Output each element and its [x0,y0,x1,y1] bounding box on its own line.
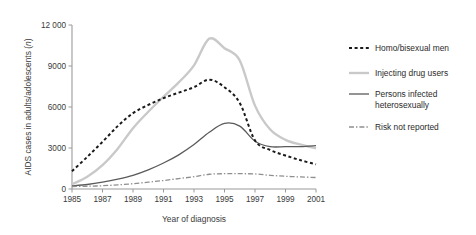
x-tick-label: 1993 [185,195,204,204]
legend-label-0: Homo/bisexual men [375,43,449,53]
legend-label-2-line2: heterosexually [375,100,430,110]
y-tick-label: 12 000 [41,21,66,30]
series-layer [72,38,316,186]
chart-figure: 030006000900012 000198519871989199119931… [0,0,476,235]
legend-label-2: Persons infected [375,89,438,99]
x-axis-title: Year of diagnosis [162,214,226,224]
y-tick-label: 3000 [48,144,67,153]
x-tick-label: 1989 [124,195,143,204]
legend-label-1: Injecting drug users [375,68,448,78]
axis-labels-layer: 030006000900012 000198519871989199119931… [23,21,326,224]
y-tick-label: 9000 [48,62,67,71]
y-tick-label: 6000 [48,103,67,112]
axes-layer [69,25,317,193]
x-tick-label: 1985 [63,195,82,204]
y-tick-label: 0 [61,185,66,194]
series-line-solid-1 [72,38,316,184]
aids-cases-line-chart: 030006000900012 000198519871989199119931… [0,0,476,235]
y-axis-title: AIDS cases in adults/adolescents (n) [23,38,33,175]
x-tick-label: 2001 [307,195,326,204]
chart-legend: Homo/bisexual menInjecting drug usersPer… [349,43,449,132]
y-axis-title-text: AIDS cases in adults/adolescents (n) [23,38,33,175]
x-tick-label: 1987 [93,195,112,204]
series-line-dashdot-3 [72,174,316,187]
legend-label-3: Risk not reported [375,122,439,132]
x-tick-label: 1997 [246,195,265,204]
x-tick-label: 1999 [276,195,295,204]
x-tick-label: 1995 [215,195,234,204]
x-tick-label: 1991 [154,195,173,204]
